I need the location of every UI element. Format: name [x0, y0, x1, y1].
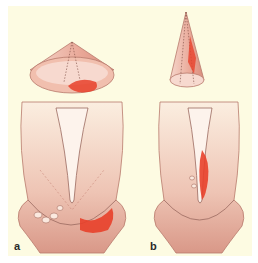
- panel-b-cervix: [154, 102, 244, 253]
- illustration: [0, 0, 258, 263]
- panel-b-cone-specimen: [170, 12, 204, 87]
- panel-a-cervix: [18, 102, 126, 253]
- panel-a-cone-specimen: [30, 42, 114, 93]
- panel-label-a: a: [14, 240, 20, 252]
- panel-label-b: b: [150, 240, 157, 252]
